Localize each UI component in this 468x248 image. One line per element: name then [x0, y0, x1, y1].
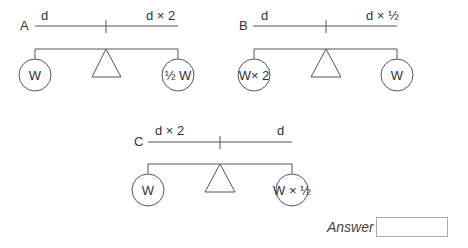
left-weight-a: W [29, 68, 42, 83]
right-distance-a: d × 2 [146, 8, 175, 23]
right-distance-b: d × ½ [366, 8, 399, 23]
right-weight-b: W [391, 68, 404, 83]
right-weight-a: ½ W [165, 68, 192, 83]
left-weight-b: W× 2 [239, 68, 270, 83]
right-distance-c: d [277, 123, 284, 138]
panel-label-c: C [134, 134, 143, 149]
fulcrum-triangle [205, 164, 235, 192]
fulcrum-triangle [311, 49, 341, 77]
panel-label-a: A [20, 18, 29, 33]
left-distance-a: d [41, 8, 48, 23]
left-distance-c: d × 2 [155, 123, 184, 138]
left-distance-b: d [261, 8, 268, 23]
answer-label: Answer [327, 219, 374, 235]
answer-input[interactable] [376, 217, 448, 237]
panel-label-b: B [239, 18, 248, 33]
fulcrum-triangle [92, 49, 121, 77]
right-weight-c: W × ½ [273, 183, 311, 198]
balance-diagrams: A d d × 2 W ½ W B d d × ½ W× 2 W C d × 2… [0, 0, 468, 248]
left-weight-c: W [142, 183, 155, 198]
